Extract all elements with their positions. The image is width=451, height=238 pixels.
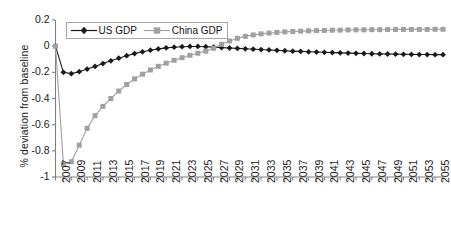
legend-item-china-gdp: China GDP: [144, 25, 223, 36]
x-tick-label: 2053: [423, 160, 435, 183]
x-tick-label: 2019: [154, 160, 166, 183]
y-tick-label: -1: [0, 170, 50, 182]
legend-label-us-gdp: US GDP: [99, 25, 137, 36]
y-tick-label: -0.4: [0, 92, 50, 104]
x-tick-label: 2023: [186, 160, 198, 183]
y-tick-label: 0: [0, 39, 50, 51]
x-tick-label: 2041: [328, 160, 340, 183]
x-tick-label: 2045: [360, 160, 372, 183]
x-tick-label: 2043: [344, 160, 356, 183]
x-tick-label: 2037: [297, 160, 309, 183]
series-china-gdp: [53, 27, 446, 167]
x-tick-label: 2025: [202, 160, 214, 183]
y-tick-label: 0.2: [0, 13, 50, 25]
x-tick-label: 2015: [123, 160, 135, 183]
y-tick-label: -0.6: [0, 118, 50, 130]
x-tick-label: 2007: [60, 160, 72, 183]
y-tick-label: -0.2: [0, 65, 50, 77]
x-tick-label: 2031: [249, 160, 261, 183]
diamond-marker-icon: [71, 26, 97, 35]
x-tick-label: 2035: [281, 160, 293, 183]
chart-legend: US GDP China GDP: [66, 22, 229, 39]
x-tick-label: 2049: [392, 160, 404, 183]
chart-series-group: [53, 27, 446, 167]
x-tick-label: 2017: [139, 160, 151, 183]
x-tick-label: 2055: [439, 160, 451, 183]
legend-label-china-gdp: China GDP: [172, 25, 223, 36]
legend-item-us-gdp: US GDP: [71, 25, 137, 36]
x-tick-label: 2029: [233, 160, 245, 183]
x-tick-label: 2013: [107, 160, 119, 183]
x-tick-label: 2021: [170, 160, 182, 183]
x-tick-label: 2011: [91, 160, 103, 183]
series-us-gdp: [53, 43, 446, 76]
x-tick-label: 2033: [265, 160, 277, 183]
square-marker-icon: [144, 26, 170, 35]
x-tick-label: 2051: [407, 160, 419, 183]
x-tick-label: 2009: [75, 160, 87, 183]
y-tick-label: -0.8: [0, 144, 50, 156]
x-tick-label: 2027: [218, 160, 230, 183]
x-tick-label: 2039: [313, 160, 325, 183]
x-tick-label: 2047: [376, 160, 388, 183]
